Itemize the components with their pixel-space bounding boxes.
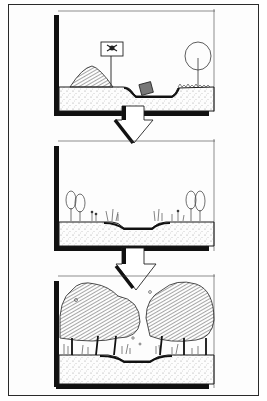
shrubs-right (186, 191, 205, 221)
panel-stage-3 (54, 274, 215, 389)
grasses (91, 209, 184, 221)
panel-stage-1 (54, 9, 215, 116)
arrow-2-to-3 (116, 248, 156, 290)
woodland-right (146, 282, 214, 355)
panel-stage-2 (54, 139, 215, 251)
shrubs-left (66, 191, 85, 221)
dumped-barrel (139, 82, 153, 96)
spoil-mound (70, 66, 113, 87)
lone-tree-outline (185, 42, 211, 86)
restoration-sketch (0, 0, 267, 401)
